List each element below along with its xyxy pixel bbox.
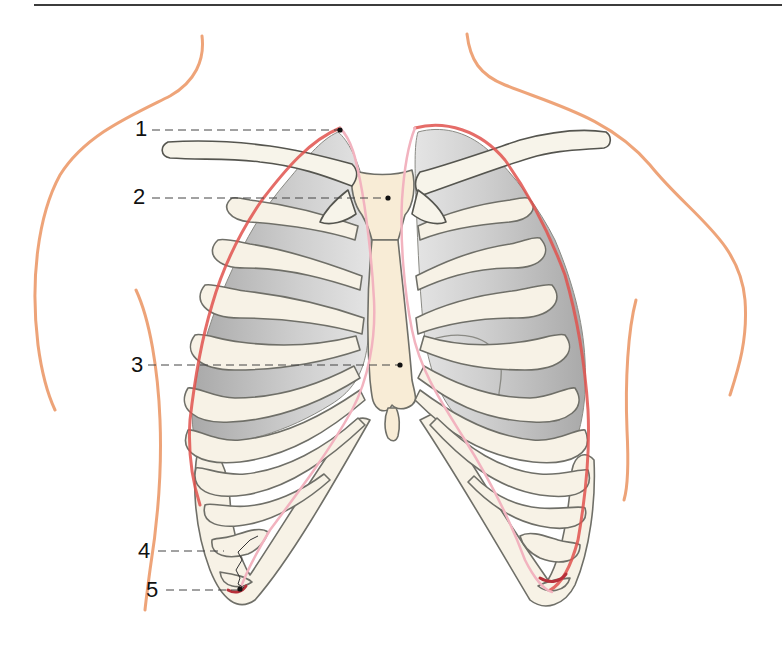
neck-left-line [35, 36, 203, 410]
leader-dot-5 [237, 586, 242, 591]
label-2: 2 [133, 186, 145, 208]
xiphoid-process [385, 408, 399, 441]
label-4: 4 [138, 540, 150, 562]
right-arm-inner-line [624, 300, 636, 500]
leader-dot-3 [397, 362, 402, 367]
thorax-illustration [0, 0, 782, 653]
leader-dot-2 [385, 195, 390, 200]
label-5: 5 [146, 579, 158, 601]
label-1: 1 [135, 118, 147, 140]
label-3: 3 [131, 354, 143, 376]
leader-dot-1 [337, 127, 342, 132]
